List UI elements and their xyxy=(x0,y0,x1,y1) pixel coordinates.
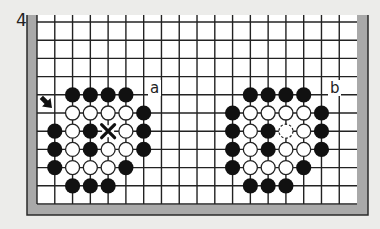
black-stone xyxy=(278,87,293,102)
white-stone xyxy=(279,161,293,175)
black-stone xyxy=(136,124,151,139)
white-stone xyxy=(101,142,115,156)
black-stone xyxy=(101,87,116,102)
black-stone xyxy=(243,178,258,193)
white-stone xyxy=(279,142,293,156)
black-stone xyxy=(47,160,62,175)
white-stone xyxy=(243,124,257,138)
black-stone xyxy=(225,105,240,120)
diagram-label-a: a xyxy=(150,79,159,97)
black-stone xyxy=(83,87,98,102)
white-stone xyxy=(119,142,133,156)
black-stone xyxy=(314,105,329,120)
white-stone xyxy=(66,142,80,156)
white-stone xyxy=(261,161,275,175)
white-stone xyxy=(83,161,97,175)
black-stone xyxy=(225,142,240,157)
black-stone xyxy=(278,178,293,193)
black-stone xyxy=(118,87,133,102)
white-stone xyxy=(66,106,80,120)
black-stone xyxy=(65,178,80,193)
black-stone xyxy=(225,160,240,175)
black-stone xyxy=(243,87,258,102)
white-stone xyxy=(297,142,311,156)
white-stone xyxy=(243,106,257,120)
white-stone xyxy=(297,106,311,120)
black-stone xyxy=(225,124,240,139)
white-stone xyxy=(119,106,133,120)
white-stone xyxy=(243,142,257,156)
black-stone xyxy=(261,124,276,139)
white-stone xyxy=(83,106,97,120)
black-stone xyxy=(261,87,276,102)
black-stone xyxy=(83,142,98,157)
black-stone xyxy=(47,142,62,157)
white-stone xyxy=(243,161,257,175)
white-stone xyxy=(66,124,80,138)
black-stone xyxy=(314,142,329,157)
white-stone xyxy=(119,124,133,138)
white-stone xyxy=(261,106,275,120)
black-stone xyxy=(118,160,133,175)
diagram-label-b: b xyxy=(330,79,340,97)
black-stone xyxy=(136,142,151,157)
white-stone xyxy=(101,161,115,175)
white-stone xyxy=(279,106,293,120)
black-stone xyxy=(296,87,311,102)
black-stone xyxy=(296,160,311,175)
black-stone xyxy=(47,124,62,139)
black-stone xyxy=(83,178,98,193)
black-stone xyxy=(261,142,276,157)
black-stone xyxy=(136,105,151,120)
black-stone xyxy=(261,178,276,193)
white-stone xyxy=(101,106,115,120)
white-stone xyxy=(66,161,80,175)
go-board: ab xyxy=(0,0,380,229)
black-stone xyxy=(314,124,329,139)
black-stone xyxy=(101,178,116,193)
dashed-white-stone xyxy=(279,124,293,138)
black-stone xyxy=(65,87,80,102)
black-stone xyxy=(83,124,98,139)
white-stone xyxy=(297,124,311,138)
